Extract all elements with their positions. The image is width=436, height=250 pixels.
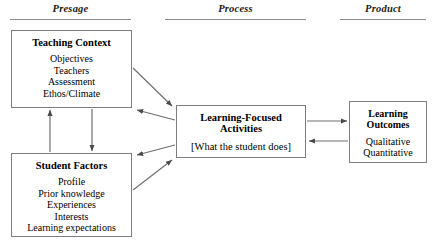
list-item: Prior knowledge [27, 188, 116, 199]
connector-activities-to-student [137, 145, 175, 155]
connector-student-to-activities [133, 160, 172, 190]
phase-header-process: Process [165, 3, 306, 14]
list-item: Learning expectations [27, 222, 116, 233]
node-learning-outcomes-title-line2: Outcomes [367, 120, 410, 131]
node-learning-activities-title-line2: Activities [200, 123, 282, 134]
node-teaching-context-title: Teaching Context [32, 37, 111, 48]
node-student-factors-items: Profile Prior knowledge Experiences Inte… [27, 176, 116, 233]
list-item: [What the student does] [191, 141, 291, 153]
list-item: Profile [27, 176, 116, 187]
node-learning-activities-title-line1: Learning-Focused [200, 112, 282, 123]
node-teaching-context: Teaching Context Objectives Teachers Ass… [11, 30, 132, 108]
node-student-factors: Student Factors Profile Prior knowledge … [11, 153, 132, 237]
list-item: Ethos/Climate [43, 88, 100, 99]
phase-rule-presage [10, 19, 131, 20]
node-learning-activities-title: Learning-Focused Activities [200, 112, 282, 135]
phase-rule-process [165, 19, 306, 20]
list-item: Teachers [43, 65, 100, 76]
phase-header-product: Product [340, 3, 426, 14]
node-learning-outcomes-title: Learning Outcomes [367, 109, 410, 131]
list-item: Quantitative [363, 147, 412, 158]
list-item: Interests [27, 211, 116, 222]
connector-context-to-activities [133, 68, 172, 106]
list-item: Assessment [43, 76, 100, 87]
list-item: Qualitative [363, 136, 412, 147]
phase-header-presage: Presage [10, 3, 131, 14]
node-learning-activities-items: [What the student does] [191, 141, 291, 153]
node-learning-outcomes-items: Qualitative Quantitative [363, 136, 412, 159]
node-student-factors-title: Student Factors [36, 160, 107, 171]
diagram-canvas: Presage Process Product Teaching Context… [0, 0, 436, 250]
list-item: Experiences [27, 199, 116, 210]
connector-activities-to-context [137, 110, 175, 120]
phase-rule-product [340, 19, 426, 20]
list-item: Objectives [43, 53, 100, 64]
node-learning-activities: Learning-Focused Activities [What the st… [176, 105, 306, 158]
node-teaching-context-items: Objectives Teachers Assessment Ethos/Cli… [43, 53, 100, 99]
node-learning-outcomes: Learning Outcomes Qualitative Quantitati… [349, 101, 427, 163]
